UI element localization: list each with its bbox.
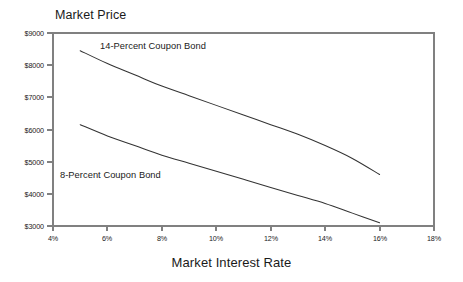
y-tick-marks xyxy=(47,33,53,226)
x-tick-label: 6% xyxy=(102,234,113,243)
x-axis-title: Market Interest Rate xyxy=(0,255,463,270)
y-tick-label: $5000 xyxy=(25,158,45,167)
x-tick-label: 16% xyxy=(373,234,388,243)
series-label-8-percent-coupon-bond: 8-Percent Coupon Bond xyxy=(60,170,161,180)
x-tick-label: 12% xyxy=(264,234,279,243)
plot-area: $9000 $8000 $7000 $6000 $5000 $4000 $300… xyxy=(0,0,463,282)
x-tick-label: 14% xyxy=(318,234,333,243)
series-label-14-percent-coupon-bond: 14-Percent Coupon Bond xyxy=(100,41,206,51)
axis-frame xyxy=(53,33,434,226)
series-line-14-percent-coupon-bond xyxy=(80,51,379,175)
x-tick-marks xyxy=(53,226,434,231)
y-tick-label: $9000 xyxy=(25,29,45,38)
x-tick-label: 4% xyxy=(48,234,59,243)
y-tick-label: $6000 xyxy=(25,126,45,135)
x-tick-label: 18% xyxy=(427,234,442,243)
x-tick-labels: 4% 6% 8% 10% 12% 14% 16% 18% xyxy=(48,234,442,243)
chart-figure: Market Price $9000 $8000 $7000 $6000 $50… xyxy=(0,0,463,282)
y-tick-label: $3000 xyxy=(25,222,45,231)
x-tick-label: 8% xyxy=(157,234,168,243)
y-tick-label: $7000 xyxy=(25,93,45,102)
y-tick-labels: $9000 $8000 $7000 $6000 $5000 $4000 $300… xyxy=(25,29,45,231)
y-tick-label: $4000 xyxy=(25,190,45,199)
x-tick-label: 10% xyxy=(209,234,224,243)
y-tick-label: $8000 xyxy=(25,61,45,70)
